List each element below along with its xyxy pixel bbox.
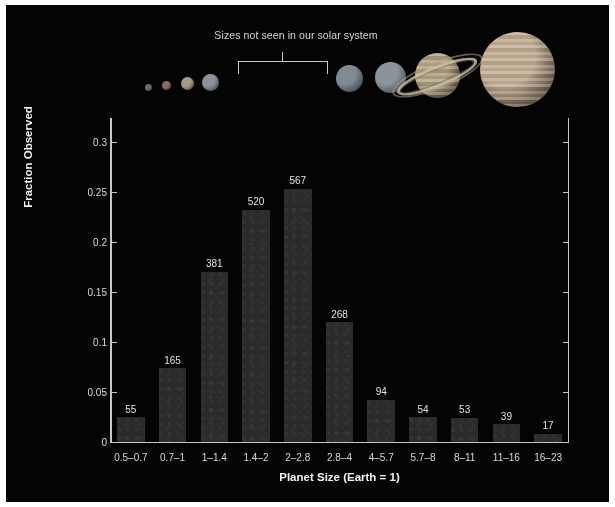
y-axis-tick	[112, 192, 117, 194]
y-axis-tick-label: 0	[67, 437, 107, 448]
x-axis-tick-label: 0.7–1	[160, 452, 185, 463]
x-axis	[110, 442, 569, 444]
bar-value-label: 165	[164, 355, 181, 366]
x-axis-tick-label: 5.7–8	[410, 452, 435, 463]
bracket-right-foot	[327, 61, 328, 74]
planet-jupiter-icon	[480, 32, 555, 107]
bar[interactable]	[493, 424, 521, 441]
chart-canvas: Sizes not seen in our solar system 00.05…	[6, 5, 609, 502]
x-axis-tick-label: 1–1.4	[202, 452, 227, 463]
y-axis-tick-right	[563, 392, 568, 394]
x-axis-tick-label: 4–5.7	[369, 452, 394, 463]
y-axis-tick-label: 0.3	[67, 137, 107, 148]
y-axis-tick	[112, 392, 117, 394]
x-axis-tick-label: 11–16	[493, 452, 520, 463]
planet-venus-icon	[181, 77, 194, 90]
x-axis-tick-label: 8–11	[454, 452, 476, 463]
y-axis-tick	[112, 292, 117, 294]
planet-earth-icon	[202, 74, 219, 91]
planet-jupiter-icon-body	[480, 32, 555, 107]
bar-value-label: 268	[331, 309, 348, 320]
planet-mars-icon-body	[162, 81, 171, 90]
planet-neptune-icon	[336, 65, 363, 92]
bar[interactable]	[242, 210, 270, 442]
bracket-annotation-label: Sizes not seen in our solar system	[181, 29, 411, 41]
figure-root: Sizes not seen in our solar system 00.05…	[0, 0, 615, 507]
bar-value-label: 54	[417, 404, 428, 415]
bar-value-label: 55	[125, 404, 136, 415]
bar[interactable]	[201, 272, 229, 442]
plot-area: 00.050.10.150.20.250.3 55165381520567268…	[110, 118, 569, 443]
bar[interactable]	[451, 418, 479, 442]
bar[interactable]	[159, 368, 187, 442]
planet-jupiter-icon-bands	[480, 32, 555, 107]
y-axis-tick-right	[563, 442, 568, 444]
y-axis-tick-right	[563, 342, 568, 344]
x-axis-tick-label: 2–2.8	[285, 452, 310, 463]
y-axis-tick-label: 0.1	[67, 337, 107, 348]
planet-mercury-icon	[145, 84, 152, 91]
y-axis-left	[110, 118, 112, 443]
y-axis-tick	[112, 442, 117, 444]
planet-neptune-icon-body	[336, 65, 363, 92]
x-axis-tick-label: 2.8–4	[327, 452, 352, 463]
bar-value-label: 94	[376, 386, 387, 397]
x-axis-title: Planet Size (Earth = 1)	[110, 471, 569, 483]
bracket-left-foot	[238, 61, 239, 74]
y-axis-tick-label: 0.15	[67, 287, 107, 298]
y-axis-tick	[112, 142, 117, 144]
y-axis-tick-right	[563, 242, 568, 244]
bracket-annotation-shape	[238, 52, 328, 74]
y-axis-tick	[112, 242, 117, 244]
y-axis-tick-label: 0.25	[67, 187, 107, 198]
x-axis-tick-label: 16–23	[534, 452, 562, 463]
planet-saturn-icon	[415, 53, 460, 98]
y-axis-title: Fraction Observed	[22, 82, 34, 232]
y-axis-tick-right	[563, 192, 568, 194]
bar-value-label: 567	[289, 175, 306, 186]
bar-value-label: 381	[206, 258, 223, 269]
bar[interactable]	[409, 417, 437, 441]
y-axis-tick	[112, 342, 117, 344]
bar-value-label: 53	[459, 404, 470, 415]
bar-value-label: 520	[248, 196, 265, 207]
y-axis-right	[568, 118, 570, 443]
y-axis-tick-label: 0.2	[67, 237, 107, 248]
bar[interactable]	[117, 417, 145, 442]
bar[interactable]	[534, 434, 562, 442]
y-axis-tick-right	[563, 292, 568, 294]
bar[interactable]	[284, 189, 312, 442]
bracket-crossbar	[238, 61, 328, 62]
bar-value-label: 39	[501, 411, 512, 422]
planet-mercury-icon-body	[145, 84, 152, 91]
planet-earth-icon-body	[202, 74, 219, 91]
y-axis-tick-label: 0.05	[67, 387, 107, 398]
planet-venus-icon-body	[181, 77, 194, 90]
planet-mars-icon	[162, 81, 171, 90]
bar[interactable]	[326, 322, 354, 442]
y-axis-tick-right	[563, 142, 568, 144]
bar-value-label: 17	[543, 420, 554, 431]
bar[interactable]	[367, 400, 395, 442]
x-axis-tick-label: 0.5–0.7	[114, 452, 147, 463]
x-axis-tick-label: 1.4–2	[244, 452, 269, 463]
